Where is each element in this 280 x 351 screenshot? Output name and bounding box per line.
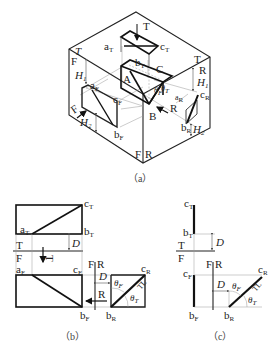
label-cR: cR [200, 88, 210, 102]
caption-b: （b） [60, 331, 85, 342]
c-label-F: F [178, 252, 184, 264]
b-label-bF: bF [80, 309, 90, 323]
label-H1-left: H1 [74, 69, 86, 83]
caption-a: （a） [128, 173, 152, 184]
label-F-left: F [71, 55, 77, 67]
right-view-TL-line [187, 95, 198, 123]
b-label-bR: bR [106, 309, 117, 323]
b-label-bT: bT [84, 225, 95, 239]
label-T: T [143, 20, 150, 32]
label-cF: cF [113, 93, 122, 107]
label-R-arrow: R [170, 102, 178, 114]
projection-diagram: T aT cT bT A C B T F H1 aF cF bF F H2 T … [0, 0, 280, 351]
c-label-cR: cR [258, 263, 268, 277]
c-label-thetaT: θT [248, 295, 257, 307]
caption-c: （c） [208, 331, 232, 342]
panel-a: T aT cT bT A C B T F H1 aF cF bF F H2 T … [68, 12, 210, 184]
label-aT: aT [104, 40, 114, 54]
label-F-arrow: F [68, 102, 80, 115]
b-label-aF: aF [16, 263, 25, 277]
c-label-TL: TL [250, 280, 263, 293]
c-label-bF: bF [189, 309, 199, 323]
b-label-arrow-T: T [44, 255, 56, 262]
b-label-cF: cF [73, 263, 82, 277]
label-R-right: R [199, 64, 207, 76]
c-label-bR: bR [224, 309, 235, 323]
label-H2-right: H2 [192, 123, 205, 137]
c-label-bT: bT [183, 226, 194, 240]
label-bF: bF [114, 128, 124, 142]
c-label-D-side: D [216, 278, 225, 290]
c-label-F-fold: F [206, 258, 212, 270]
b-label-R-arrow: R [98, 288, 106, 300]
c-label-thetaF: θF [232, 281, 241, 293]
b-label-D: D [71, 237, 80, 249]
c-label-T: T [178, 239, 185, 251]
b-front-view [16, 275, 82, 307]
b-label-aT: aT [20, 223, 30, 237]
c-label-cF: cF [183, 267, 192, 281]
b-label-D-side: D [98, 270, 107, 282]
view-arrow-R [157, 107, 168, 113]
b-label-cT: cT [84, 197, 94, 211]
label-F-bottom: F [135, 148, 141, 160]
panel-c: cT bT D T F cF bF F R D cR bR θF θT TL （… [176, 197, 268, 342]
panel-b: aT cT bT D T F T aF cF bF F R D R cR bR … [13, 197, 151, 342]
label-C: C [156, 63, 163, 75]
b-label-TL: TL [135, 278, 148, 291]
label-B: B [149, 110, 156, 122]
b-label-R-fold: R [97, 258, 105, 270]
c-label-R-fold: R [215, 258, 223, 270]
c-label-D: D [215, 236, 224, 248]
label-H2-left: H2 [79, 116, 92, 130]
label-bT: bT [135, 56, 146, 70]
b-label-cR: cR [141, 262, 151, 276]
label-cT: cT [160, 40, 170, 54]
b-label-T: T [16, 239, 23, 251]
b-label-F-fold: F [88, 258, 94, 270]
top-view-outline [121, 31, 158, 54]
b-label-thetaT: θT [130, 293, 139, 305]
label-A: A [123, 73, 131, 85]
c-label-cT: cT [184, 197, 194, 211]
label-R-bottom: R [145, 148, 153, 160]
